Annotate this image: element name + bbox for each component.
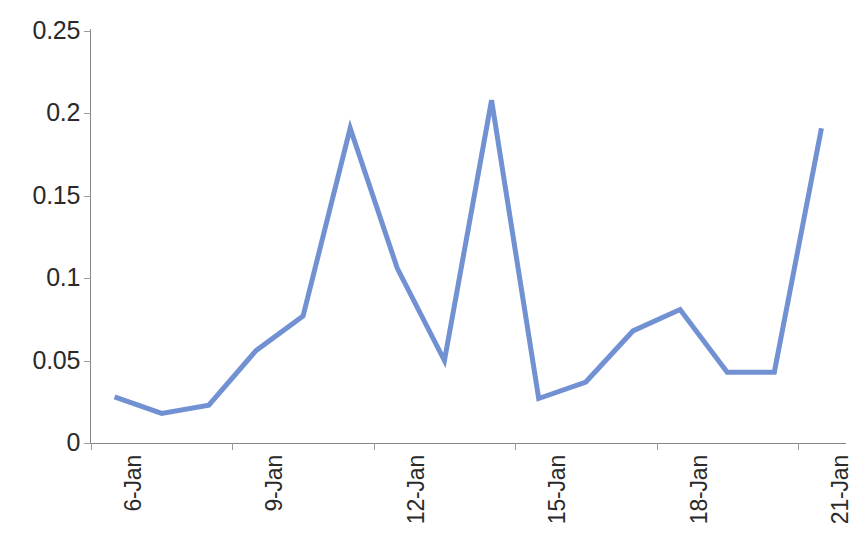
x-axis-tick-label: 15-Jan xyxy=(546,455,569,524)
y-axis-tick xyxy=(84,361,91,362)
series-line xyxy=(91,31,845,443)
y-axis-tick-labels: 00.050.10.150.20.25 xyxy=(0,0,80,542)
y-axis-tick xyxy=(84,196,91,197)
x-axis-tick-label: 12-Jan xyxy=(405,455,428,524)
y-axis-tick xyxy=(84,443,91,444)
x-axis-line xyxy=(90,443,846,444)
y-axis-tick xyxy=(84,278,91,279)
y-axis-tick xyxy=(84,31,91,32)
y-axis-tick-label: 0.1 xyxy=(6,265,80,290)
y-axis-tick-label: 0.15 xyxy=(6,183,80,208)
line-chart: 00.050.10.150.20.25 6-Jan9-Jan12-Jan15-J… xyxy=(0,0,865,542)
x-axis-tick xyxy=(91,443,92,450)
y-axis-tick-label: 0.05 xyxy=(6,348,80,373)
y-axis-tick-label: 0.25 xyxy=(6,18,80,43)
x-axis-tick-label: 6-Jan xyxy=(122,455,145,512)
x-axis-tick xyxy=(374,443,375,450)
plot-area xyxy=(91,31,845,443)
x-axis-tick xyxy=(515,443,516,450)
y-axis-tick xyxy=(84,113,91,114)
y-axis-tick-label: 0 xyxy=(6,430,80,455)
x-axis-tick xyxy=(232,443,233,450)
x-axis-tick xyxy=(798,443,799,450)
x-axis-tick-label: 21-Jan xyxy=(829,455,852,524)
y-axis-tick-label: 0.2 xyxy=(6,100,80,125)
x-axis-tick-label: 18-Jan xyxy=(688,455,711,524)
x-axis-tick-label: 9-Jan xyxy=(263,455,286,512)
series-polyline xyxy=(115,100,822,413)
x-axis-tick xyxy=(657,443,658,450)
